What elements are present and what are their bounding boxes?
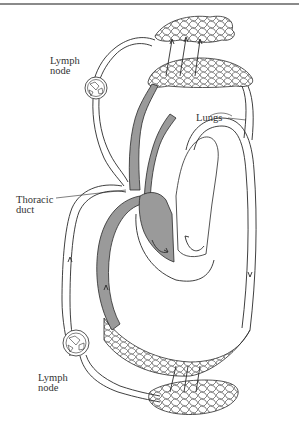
heart-right-side [139, 193, 174, 262]
lymph-node-bottom [63, 330, 89, 356]
heart-left-side [176, 137, 218, 257]
lymph-node-top [85, 77, 107, 99]
systemic-capillary-bed-lower [149, 380, 238, 415]
label-lymph-node-top: Lymph node [50, 56, 80, 76]
label-lungs: Lungs [196, 113, 222, 123]
lung-capillary-bed-upper [155, 16, 234, 42]
label-thoracic-duct: Thoracic duct [16, 195, 53, 215]
lung-capillary-bed-lower [148, 58, 253, 88]
circulatory-diagram [0, 0, 299, 433]
label-lymph-node-bottom: Lymph node [38, 373, 68, 393]
systemic-capillary-bed-upper [104, 318, 250, 376]
thoracic-duct-leader-line [56, 190, 126, 198]
lymph-vessel-left-upper [93, 99, 128, 186]
vena-cava-loop [97, 196, 142, 330]
pulmonary-artery [129, 84, 158, 190]
lymph-vessel-upper [94, 38, 155, 82]
